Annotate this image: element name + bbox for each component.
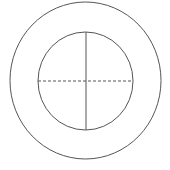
concentric-circle-diagram [0, 0, 170, 170]
